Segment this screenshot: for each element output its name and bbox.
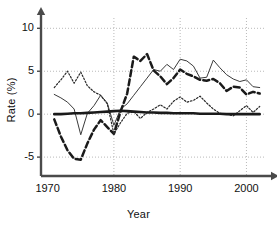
rate-line-chart: Rate (%) Year 19701980199020001050-5 [0,0,277,228]
y-tick-label: 10 [10,21,34,33]
x-tick-label: 1990 [160,182,200,194]
axes [37,7,277,180]
thin-solid-series [54,59,259,135]
y-tick-label: 0 [10,107,34,119]
x-axis-title: Year [0,208,277,220]
dotted-series [54,71,259,134]
x-tick-label: 1970 [28,182,68,194]
data-series-layer [54,54,259,160]
gridlines [41,18,265,176]
zero-reference-series [54,111,259,114]
x-tick-label: 1980 [94,182,134,194]
y-axis-title: Rate (%) [5,71,17,129]
y-tick-label: -5 [10,150,34,162]
y-tick-label: 5 [10,64,34,76]
x-tick-label: 2000 [226,182,266,194]
